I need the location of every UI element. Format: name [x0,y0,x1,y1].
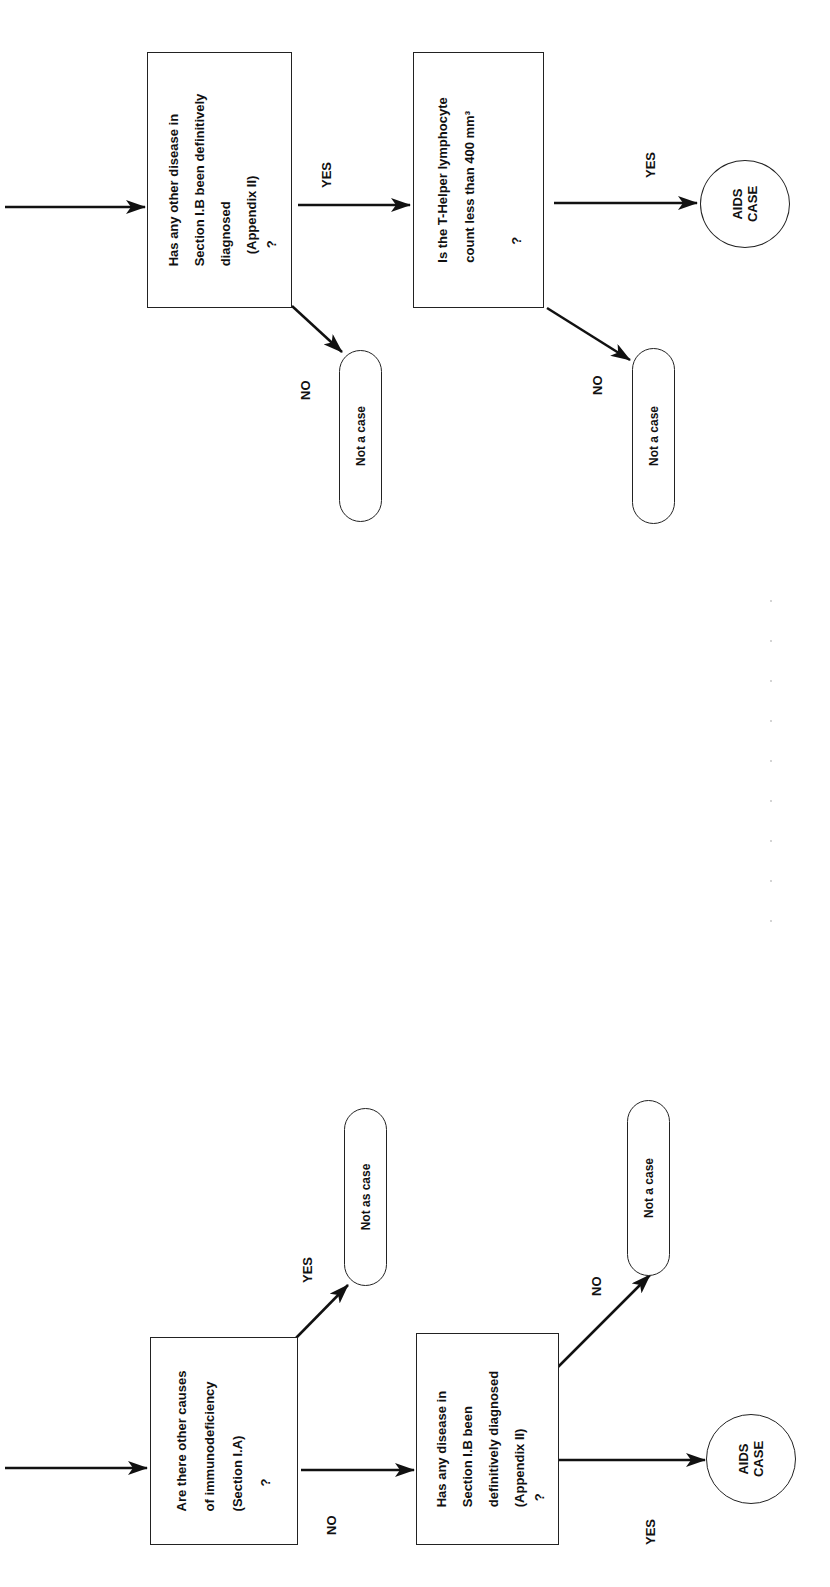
arrow-q2-no [558,1275,650,1367]
decision-box-t-helper-count: Is the T-Helper lymphocyte count less th… [413,52,544,308]
edge-label-q4-yes: YES [643,152,658,178]
decision-text: Are there other causes of immunodeficien… [168,1371,280,1512]
decision-box-other-causes: Are there other causes of immunodeficien… [150,1337,298,1545]
aids-case-text: AIDS CASE [736,1441,766,1477]
arrow-q4-no [547,308,630,360]
edge-label-q1-no: NO [324,1516,339,1536]
edge-label-q2-no: NO [589,1277,604,1297]
decision-text: Has any other disease in Section I.B bee… [161,94,279,267]
terminal-not-a-case-q4: Not a case [632,348,675,524]
edge-label-q2-yes: YES [643,1519,658,1545]
arrow-q3-no [292,306,342,352]
edge-label-q3-yes: YES [319,162,334,188]
terminal-aids-case-bottom: AIDS CASE [706,1414,796,1504]
terminal-not-as-case: Not as case [344,1108,387,1286]
decision-text: Has any disease in Section I.B been defi… [429,1371,547,1508]
arrow-q1-yes [296,1285,348,1338]
decision-box-any-disease: Has any disease in Section I.B been defi… [416,1333,559,1545]
aids-case-text: AIDS CASE [730,186,760,222]
edge-label-q3-no: NO [298,381,313,401]
terminal-aids-case-top: AIDS CASE [700,160,790,248]
edge-label-q1-yes: YES [300,1257,315,1283]
decision-text: Is the T-Helper lymphocyte count less th… [428,97,529,262]
terminal-not-a-case-q2: Not a case [627,1100,670,1276]
decision-box-any-other-disease: Has any other disease in Section I.B bee… [147,52,292,308]
terminal-not-a-case-q3: Not a case [339,350,382,522]
edge-label-q4-no: NO [590,376,605,396]
scan-bleed-through [770,600,772,930]
